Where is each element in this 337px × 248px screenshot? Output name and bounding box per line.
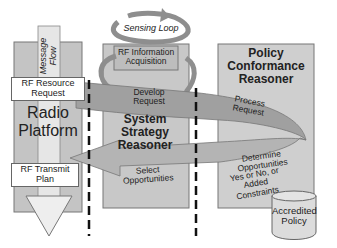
rf-resource-request-label: RF Resource Request (11, 77, 85, 101)
message-flow-label: Message Flow (39, 29, 59, 83)
rf-info-acquisition-label: RF Information Acquisition (116, 48, 176, 67)
message-flow-arrowhead (26, 196, 72, 236)
accredited-policy-label: Accredited Policy (272, 206, 316, 227)
system-strategy-title: System Strategy Reasoner (108, 113, 182, 153)
develop-request-label: Develop Request (124, 88, 174, 107)
policy-conformance-title: Policy Conformance Reasoner (222, 47, 310, 87)
sensing-loop-label: Sensing Loop (116, 24, 186, 34)
rf-transmit-plan-label: RF Transmit Plan (11, 163, 79, 187)
radio-platform-label: Radio Platform (14, 104, 82, 139)
